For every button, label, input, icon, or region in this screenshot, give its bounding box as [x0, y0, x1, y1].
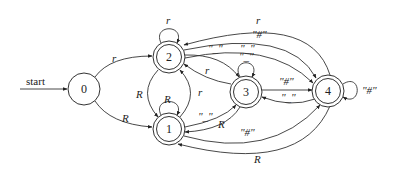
- state-0-label: 0: [81, 82, 87, 96]
- edge-2-3: [185, 55, 239, 77]
- state-3: 3: [230, 76, 262, 108]
- edge-label-4-4: "#": [362, 84, 377, 96]
- edge-4-4: [343, 82, 357, 100]
- edge-label-1-1: R: [163, 93, 171, 105]
- state-4: 4: [312, 75, 344, 107]
- edge-label-0-1: R: [121, 112, 129, 124]
- edge-2-1: [148, 70, 159, 117]
- edge-3-3: [238, 63, 254, 77]
- start-label: start: [26, 75, 45, 87]
- state-2: 2: [153, 41, 185, 73]
- edge-label-4-2: r: [256, 14, 261, 26]
- state-diagram: start r R r R R r "_" r "_" "#" r "_" R …: [0, 0, 395, 176]
- edge-label-3-4: "#": [279, 75, 294, 87]
- edge-label-2-3: "_": [208, 42, 223, 54]
- edge-label-4-3: "_": [281, 91, 296, 103]
- edge-label-3-2: r: [205, 64, 210, 76]
- edge-label-2-1: R: [135, 88, 143, 100]
- edge-label-2-2: r: [166, 14, 171, 26]
- edge-1-2: [180, 70, 191, 117]
- edge-label-1-2: r: [198, 86, 203, 98]
- edge-label-0-2: r: [112, 52, 117, 64]
- state-1: 1: [153, 113, 185, 145]
- state-3-label: 3: [243, 85, 249, 99]
- state-0: 0: [68, 73, 100, 105]
- edge-label-4-1: R: [253, 153, 261, 165]
- edge-label-2-4-hash: "#": [252, 28, 267, 40]
- state-4-label: 4: [325, 84, 331, 98]
- edge-label-2-4-underscore: "_": [240, 42, 255, 54]
- edge-0-2: [95, 56, 152, 77]
- edge-label-3-1: R: [217, 118, 225, 130]
- edge-label-1-3: "_": [198, 110, 213, 122]
- state-2-label: 2: [166, 50, 172, 64]
- state-1-label: 1: [166, 122, 172, 136]
- edge-label-1-4: "#": [240, 126, 255, 138]
